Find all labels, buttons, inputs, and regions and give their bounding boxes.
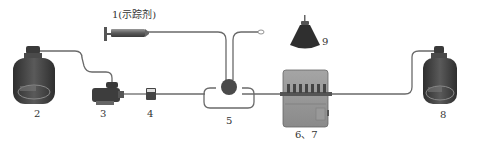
apparatus-diagram: 1(示踪剂) 2 3 4 5 6、7 8 9 [0,0,478,144]
label-funnel: 9 [322,37,328,47]
label-reservoir-right: 8 [440,110,446,120]
reservoir-bottle-right [423,46,457,104]
diagram-graphics [0,0,478,144]
label-tracer: 1(示踪剂) [112,10,156,20]
detector-unit [280,70,332,127]
outlet-tip [258,30,264,34]
valve [221,79,237,95]
pump [92,82,124,105]
funnel [290,15,320,49]
label-detector: 6、7 [295,130,318,140]
label-filter: 4 [147,109,153,119]
filter [146,88,156,100]
syringe [104,27,149,41]
reservoir-bottle-left [13,46,55,104]
label-valve: 5 [226,116,232,126]
label-pump: 3 [100,109,106,119]
label-reservoir-left: 2 [34,109,40,119]
